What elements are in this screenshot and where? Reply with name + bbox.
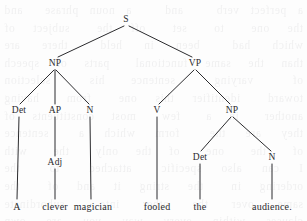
tree-node-n-10: N	[268, 152, 275, 162]
tree-edge-np1-to-n1	[56, 70, 89, 104]
tree-edge-vp-to-v	[159, 70, 194, 104]
tree-node-v-6: V	[153, 105, 160, 115]
tree-edge-s-to-vp	[129, 26, 192, 57]
tree-word-magician-13: magician	[74, 201, 112, 212]
tree-edge-s-to-np1	[58, 26, 124, 57]
tree-node-det-3: Det	[12, 105, 26, 115]
tree-edge-np1-to-det1	[20, 70, 54, 104]
tree-node-s-0: S	[123, 14, 128, 24]
tree-word-audience-16: audience.	[252, 201, 292, 212]
tree-node-ap-4: AP	[49, 105, 62, 115]
tree-node-adj-8: Adj	[48, 157, 63, 167]
tree-edge-det1-to-wa	[17, 117, 19, 199]
tree-word-fooled-14: fooled	[144, 201, 171, 212]
parse-tree-figure: a perfect verb and a noun phrase and the…	[0, 0, 307, 221]
tree-edge-n1-to-wmag	[90, 117, 91, 199]
tree-edge-np2-to-n2	[233, 117, 271, 151]
tree-word-clever-12: clever	[42, 201, 68, 212]
tree-node-det-9: Det	[193, 152, 207, 162]
tree-node-np-7: NP	[226, 105, 239, 115]
tree-word-the-15: the	[194, 201, 207, 212]
tree-node-n-5: N	[86, 105, 93, 115]
tree-node-vp-2: VP	[189, 58, 202, 68]
tree-edge-np2-to-det2	[201, 117, 231, 151]
tree-node-np-1: NP	[49, 58, 62, 68]
tree-word-a-11: A	[13, 201, 20, 212]
tree-edge-vp-to-np2	[196, 70, 230, 104]
